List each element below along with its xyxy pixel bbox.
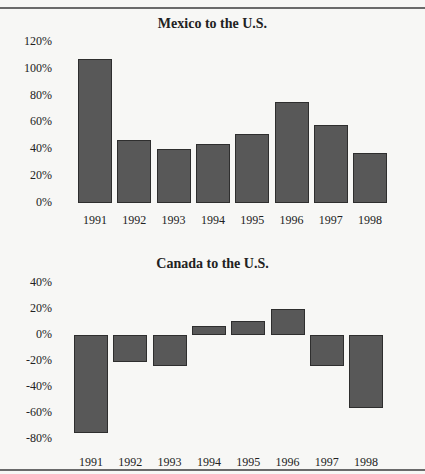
canada-chart: Canada to the U.S. 40%20%0%-20%-40%-60%-… [0,0,425,474]
bar-1995 [231,321,265,335]
x-tick-label: 1991 [71,455,111,470]
bar-1997 [310,335,344,366]
x-tick-label: 1998 [346,455,386,470]
x-tick-label: 1992 [110,455,150,470]
x-tick-label: 1995 [228,455,268,470]
y-tick-label: -20% [0,353,52,368]
y-tick-label: 20% [0,301,52,316]
chart-title: Canada to the U.S. [0,256,425,272]
bar-1994 [192,326,226,335]
y-tick-label: -40% [0,379,52,394]
bar-1992 [113,335,147,362]
y-tick-label: 40% [0,275,52,290]
y-tick-label: 0% [0,327,52,342]
bottom-rule [0,469,425,471]
bar-1991 [74,335,108,433]
x-tick-label: 1993 [150,455,190,470]
bar-1993 [153,335,187,366]
y-tick-label: -80% [0,431,52,446]
bar-1996 [271,309,305,335]
y-tick-label: -60% [0,405,52,420]
x-tick-label: 1997 [307,455,347,470]
x-tick-label: 1996 [268,455,308,470]
bar-1998 [349,335,383,408]
x-tick-label: 1994 [189,455,229,470]
